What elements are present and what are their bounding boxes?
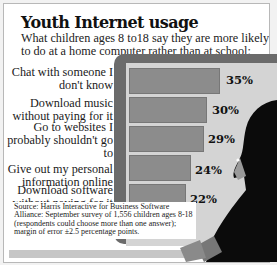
bar-value: 35%: [226, 73, 253, 87]
bar-label: Go to websites I probably shouldn't go t…: [6, 121, 113, 160]
bar: [129, 68, 220, 94]
bar-value: 29%: [208, 132, 235, 146]
bar-label: Chat with someone I don't know: [6, 66, 113, 92]
source-note: Source: Harris Interactive for Business …: [12, 202, 196, 239]
bar-value: 30%: [212, 103, 239, 117]
bar: [129, 97, 207, 123]
bar-value: 24%: [195, 163, 222, 177]
bar: [129, 126, 204, 152]
bar: [129, 155, 191, 181]
